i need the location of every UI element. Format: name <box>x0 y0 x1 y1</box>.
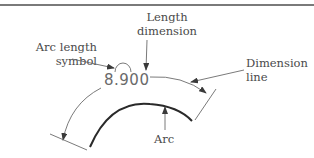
dimension-line-label-line2: line <box>246 70 268 84</box>
dimension-line-right <box>150 77 206 93</box>
extension-line-right <box>195 89 216 120</box>
length-dimension-leader <box>146 40 147 70</box>
dimension-line-label-line1: Dimension <box>246 56 309 70</box>
arc-length-symbol-label-line2: symbol <box>56 54 98 68</box>
arc-length-diagram: Length dimension Arc length symbol 8.900… <box>0 0 314 158</box>
extension-line-left <box>50 134 87 150</box>
arc-length-symbol-label-line1: Arc length <box>35 40 98 54</box>
arc-label: Arc <box>153 132 174 146</box>
dimension-line-left <box>63 88 101 140</box>
main-arc <box>90 104 192 147</box>
dimension-value: 8.900 <box>104 71 149 89</box>
dimension-line-leader <box>191 70 244 82</box>
length-dimension-label-line1: Length <box>146 10 188 24</box>
length-dimension-label-line2: dimension <box>137 24 198 38</box>
